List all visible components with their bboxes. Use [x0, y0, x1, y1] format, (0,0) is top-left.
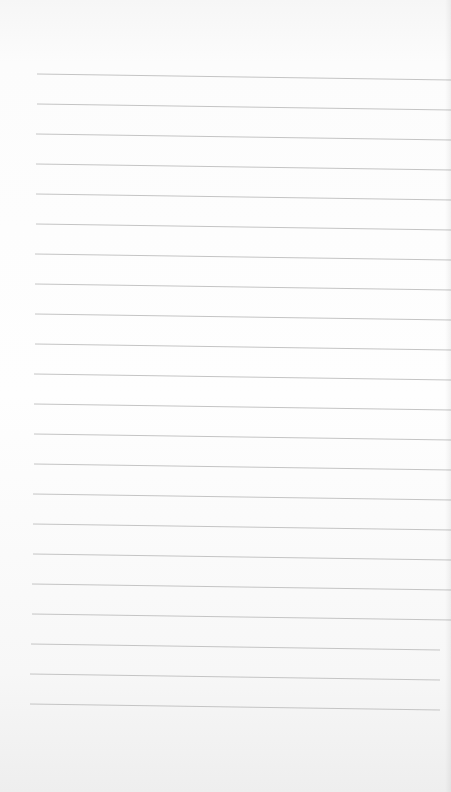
ruled-line — [34, 404, 451, 410]
ruled-line — [31, 644, 440, 650]
ruled-line — [34, 374, 451, 380]
ruled-line — [36, 224, 451, 230]
ruled-line — [35, 254, 451, 260]
ruled-line — [35, 314, 451, 320]
ruled-line — [32, 614, 451, 620]
ruled-line — [33, 494, 451, 500]
ruled-line — [36, 194, 451, 200]
ruled-line — [35, 344, 451, 350]
ruled-line — [36, 134, 451, 140]
ruled-line — [33, 524, 451, 530]
ruled-line — [36, 164, 451, 170]
ruled-lines — [0, 0, 451, 792]
ruled-line — [35, 284, 451, 290]
ruled-line — [32, 584, 451, 590]
ruled-line — [33, 554, 451, 560]
ruled-line — [37, 104, 451, 110]
lined-paper-page — [0, 0, 451, 792]
ruled-line — [30, 674, 440, 680]
ruled-line — [30, 704, 440, 710]
ruled-line — [37, 74, 451, 80]
page-edge-shadow — [445, 0, 451, 792]
ruled-line — [34, 434, 451, 440]
ruled-line — [34, 464, 451, 470]
